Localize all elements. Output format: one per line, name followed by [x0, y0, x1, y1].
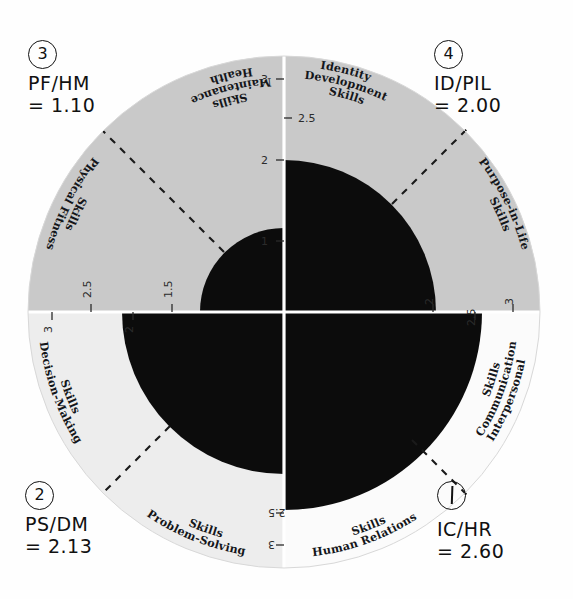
tick-down-3: 3 [268, 538, 275, 551]
quadrant-code-2: PS/DM [25, 513, 92, 535]
quadrant-code-3: PF/HM [28, 72, 95, 94]
quadrant-number-badge-2: 2 [25, 481, 54, 510]
tick-right-3: 3 [503, 298, 516, 305]
tick-right-25: 2.5 [465, 309, 478, 327]
quadrant-value-4: = 2.00 [434, 94, 501, 116]
annotation-quadrant-3: 3 PF/HM = 1.10 [28, 40, 95, 117]
tick-left-2: 2 [123, 326, 136, 333]
quadrant-value-1: = 2.60 [437, 540, 504, 562]
tick-right-2: 2 [423, 298, 436, 305]
annotation-quadrant-2: 2 PS/DM = 2.13 [25, 481, 92, 558]
tick-up-25: 2.5 [298, 112, 316, 125]
tick-up-1: 1 [261, 235, 268, 248]
quadrant-code-4: ID/PIL [434, 72, 501, 94]
quadrant-number-badge-3: 3 [28, 40, 57, 69]
quadrant-code-1: IC/HR [437, 518, 504, 540]
annotation-quadrant-1: IC/HR = 2.60 [437, 481, 504, 563]
tick-down-25: 2.5 [268, 506, 286, 519]
quadrant-value-3: = 1.10 [28, 94, 95, 116]
tick-left-3: 3 [42, 326, 55, 333]
tick-left-15: 1.5 [162, 281, 175, 299]
tick-up-2: 2 [261, 154, 268, 167]
tick-left-25: 2.5 [81, 281, 94, 299]
quadrant-number-badge-4: 4 [434, 40, 463, 69]
quadrant-value-2: = 2.13 [25, 535, 92, 557]
life-skills-wheel-figure: 1 2 2.5 3 2 2.5 3 2.5 3 1.5 2 2.5 3 Heal… [0, 0, 573, 599]
quadrant-number-badge-1 [437, 481, 466, 510]
annotation-quadrant-4: 4 ID/PIL = 2.00 [434, 40, 501, 117]
